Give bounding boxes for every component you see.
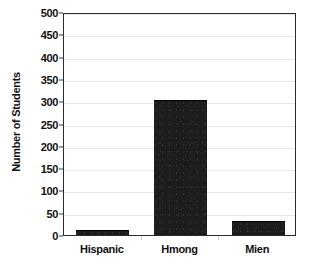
bar-chart: Number of Students 050100150200250300350… xyxy=(0,0,310,278)
bar[interactable] xyxy=(232,221,285,235)
x-axis-tick-marks xyxy=(63,236,296,242)
x-axis-tick-labels: HispanicHmongMien xyxy=(63,243,296,263)
y-axis-tick-label: 50 xyxy=(26,208,58,220)
x-axis-tick-label: Mien xyxy=(245,243,269,255)
y-axis-tick-label: 450 xyxy=(26,29,58,41)
y-axis-tick-label: 500 xyxy=(26,7,58,19)
bar[interactable] xyxy=(154,100,207,235)
y-axis-tick-label: 350 xyxy=(26,74,58,86)
y-axis-tick-label: 400 xyxy=(26,52,58,64)
y-axis-tick-label: 200 xyxy=(26,141,58,153)
x-axis-tick-label: Hispanic xyxy=(80,243,123,255)
x-axis-tick-mark xyxy=(141,236,142,240)
x-axis-tick-mark xyxy=(218,236,219,240)
bar[interactable] xyxy=(76,230,129,235)
y-axis-title: Number of Students xyxy=(10,62,22,182)
y-axis-tick-label: 0 xyxy=(26,230,58,242)
x-axis-tick-label: Hmong xyxy=(161,243,197,255)
plot-area xyxy=(63,13,296,236)
y-axis-tick-label: 150 xyxy=(26,163,58,175)
y-axis-tick-label: 300 xyxy=(26,96,58,108)
y-axis-tick-label: 100 xyxy=(26,185,58,197)
bars-layer xyxy=(64,14,295,235)
y-axis-tick-labels: 050100150200250300350400450500 xyxy=(26,13,58,236)
chart-title xyxy=(0,0,310,3)
y-axis-tick-label: 250 xyxy=(26,119,58,131)
